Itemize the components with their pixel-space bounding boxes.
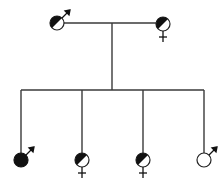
female-cross-icon — [139, 167, 147, 178]
male-arrow-icon — [26, 147, 34, 155]
child-1-symbol — [14, 147, 34, 167]
male-arrow-icon — [209, 147, 217, 155]
mother-symbol — [156, 17, 170, 42]
child-4-symbol — [197, 147, 217, 167]
female-cross-icon — [78, 167, 86, 178]
male-arrow-icon — [62, 10, 70, 18]
father-symbol — [50, 10, 70, 30]
child-3-symbol — [136, 153, 150, 178]
pedigree-diagram — [0, 0, 222, 192]
child-2-symbol — [75, 153, 89, 178]
female-cross-icon — [159, 31, 167, 42]
